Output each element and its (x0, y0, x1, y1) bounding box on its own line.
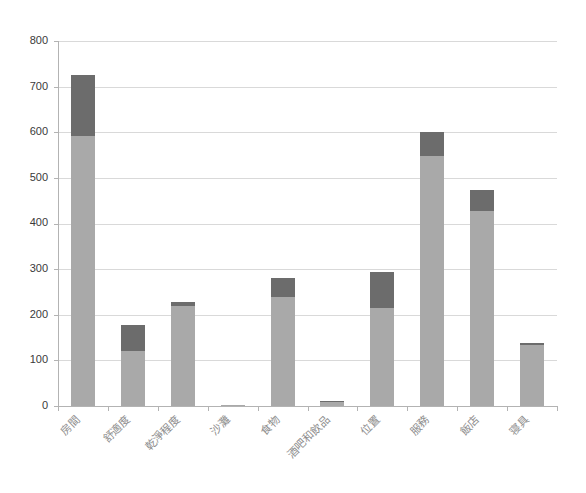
y-tick-label: 700 (30, 80, 48, 92)
y-tick-label: 200 (30, 308, 48, 320)
stacked-bar-chart: 0100200300400500600700800 房間舒適度乾淨程度沙灘食物酒… (0, 0, 586, 493)
bar-segment (320, 402, 344, 406)
bar-segment (121, 325, 145, 351)
y-tick-label: 100 (30, 353, 48, 365)
y-tick-label: 0 (42, 399, 48, 411)
bar-segment (470, 211, 494, 406)
y-tick-label: 300 (30, 262, 48, 274)
bar-segment (420, 132, 444, 157)
bar-segment (221, 405, 245, 406)
bar-segment (320, 401, 344, 402)
chart-container: 0100200300400500600700800 房間舒適度乾淨程度沙灘食物酒… (0, 0, 586, 493)
bar-segment (520, 343, 544, 346)
bar-segment (271, 278, 295, 297)
y-tick-label: 800 (30, 34, 48, 46)
bar-segment (470, 190, 494, 211)
bar-segment (171, 306, 195, 406)
bar-segment (271, 297, 295, 407)
bar-segment (121, 351, 145, 406)
y-axis-tick-labels: 0100200300400500600700800 (30, 34, 48, 411)
y-tick-label: 600 (30, 125, 48, 137)
y-tick-label: 400 (30, 216, 48, 228)
bar-segment (370, 272, 394, 308)
y-tick-label: 500 (30, 171, 48, 183)
bar-segment (71, 75, 95, 136)
bar-segment (370, 308, 394, 406)
bar-segment (520, 345, 544, 406)
bar-segment (420, 156, 444, 406)
bar-segment (171, 302, 195, 306)
bar-segment (71, 136, 95, 406)
